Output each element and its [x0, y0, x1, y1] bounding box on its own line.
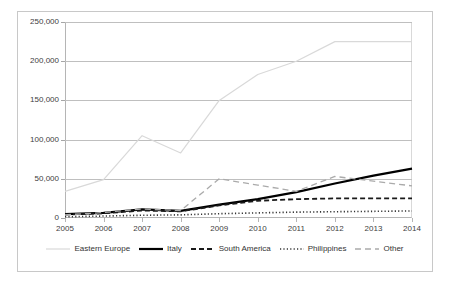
legend-item-italy[interactable]: Italy: [139, 244, 182, 253]
legend-item-south-america[interactable]: South America: [191, 244, 271, 253]
x-axis-tick-label: 2006: [84, 224, 124, 233]
y-axis-tick-label: 250,000: [0, 18, 59, 26]
legend-swatch-icon: [191, 245, 215, 253]
chart-frame: 050,000100,000150,000200,000250,000 2005…: [17, 11, 433, 272]
legend-swatch-icon: [355, 245, 379, 253]
x-axis-tickmark: [296, 218, 297, 222]
legend-item-label: South America: [219, 244, 271, 253]
x-axis-tickmark: [219, 218, 220, 222]
y-axis-tick-label: 200,000: [0, 57, 59, 65]
legend-swatch-icon: [139, 245, 163, 253]
legend-item-label: Other: [383, 244, 403, 253]
x-axis-tick-label: 2010: [238, 224, 278, 233]
x-axis-tick-label: 2008: [161, 224, 201, 233]
x-axis-tickmark: [258, 218, 259, 222]
chart-legend: Eastern EuropeItalySouth AmericaPhilippi…: [18, 244, 432, 253]
series-line-south-america: [65, 198, 412, 214]
y-axis-tick-label: 100,000: [0, 136, 59, 144]
legend-item-philippines[interactable]: Philippines: [280, 244, 347, 253]
legend-item-other[interactable]: Other: [355, 244, 403, 253]
legend-item-label: Eastern Europe: [74, 244, 130, 253]
series-line-eastern-europe: [65, 42, 412, 192]
y-axis-tick-label: 0: [0, 214, 59, 222]
x-axis-tick-label: 2011: [276, 224, 316, 233]
data-series-layer: [65, 22, 412, 218]
x-axis-tickmark: [181, 218, 182, 222]
x-axis-tickmark: [335, 218, 336, 222]
y-axis-tick-label: 150,000: [0, 96, 59, 104]
series-line-italy: [65, 169, 412, 214]
legend-swatch-icon: [280, 245, 304, 253]
x-axis-tickmark: [412, 218, 413, 222]
x-axis-tick-label: 2012: [315, 224, 355, 233]
x-axis-tick-label: 2009: [199, 224, 239, 233]
x-axis-tickmark: [65, 218, 66, 222]
x-axis-tick-label: 2007: [122, 224, 162, 233]
legend-item-label: Italy: [167, 244, 182, 253]
x-axis-tick-label: 2005: [45, 224, 85, 233]
series-line-other: [65, 176, 412, 214]
x-axis-tickmark: [142, 218, 143, 222]
x-axis-tick-label: 2013: [353, 224, 393, 233]
x-axis-tick-label: 2014: [392, 224, 432, 233]
legend-item-eastern-europe[interactable]: Eastern Europe: [46, 244, 130, 253]
legend-swatch-icon: [46, 245, 70, 253]
x-axis-tickmark: [373, 218, 374, 222]
legend-item-label: Philippines: [308, 244, 347, 253]
x-axis-tickmark: [104, 218, 105, 222]
y-axis-tick-label: 50,000: [0, 175, 59, 183]
chart-plot-wrapper: 050,000100,000150,000200,000250,000 2005…: [18, 12, 432, 271]
